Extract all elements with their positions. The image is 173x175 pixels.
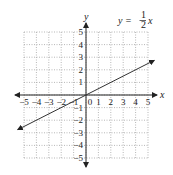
y-tick-label: −2 [73, 115, 83, 125]
x-tick-label: 2 [109, 97, 114, 107]
x-tick-label: 0 [88, 97, 93, 107]
equation-variable: x [147, 15, 153, 26]
y-tick-label: 3 [79, 52, 84, 62]
x-tick-label: 1 [96, 97, 101, 107]
y-tick-label: 4 [79, 40, 84, 50]
y-tick-label: 1 [79, 77, 84, 87]
y-tick-label: 2 [79, 65, 84, 75]
equation-annotation: y = 1 2 x [117, 9, 153, 30]
y-axis-label: y [83, 11, 89, 22]
chart: −5−4−3−2−1012345−5−4−3−2−112345 x y y = … [0, 0, 173, 175]
x-tick-label: 4 [133, 97, 138, 107]
y-tick-label: −5 [73, 153, 83, 163]
y-tick-label: −1 [73, 103, 83, 113]
x-tick-label: −3 [44, 97, 54, 107]
equation-lhs: y = [117, 15, 132, 26]
x-axis-label: x [159, 89, 165, 100]
x-tick-label: 5 [146, 97, 151, 107]
y-tick-label: 5 [79, 27, 84, 37]
x-tick-label: −5 [19, 97, 29, 107]
y-tick-label: −3 [73, 128, 83, 138]
x-tick-label: 3 [121, 97, 126, 107]
y-tick-label: −4 [73, 140, 83, 150]
equation-denominator: 2 [141, 19, 146, 30]
x-tick-label: −4 [32, 97, 42, 107]
